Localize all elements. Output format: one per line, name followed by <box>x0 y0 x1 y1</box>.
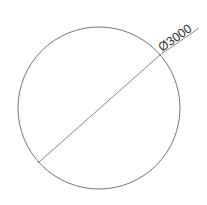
diameter-dimension-label: Ø3000 <box>156 21 195 54</box>
diameter-dimension-line <box>38 55 160 163</box>
cad-drawing-canvas: Ø3000 <box>0 0 207 205</box>
circle-outline <box>18 27 180 189</box>
